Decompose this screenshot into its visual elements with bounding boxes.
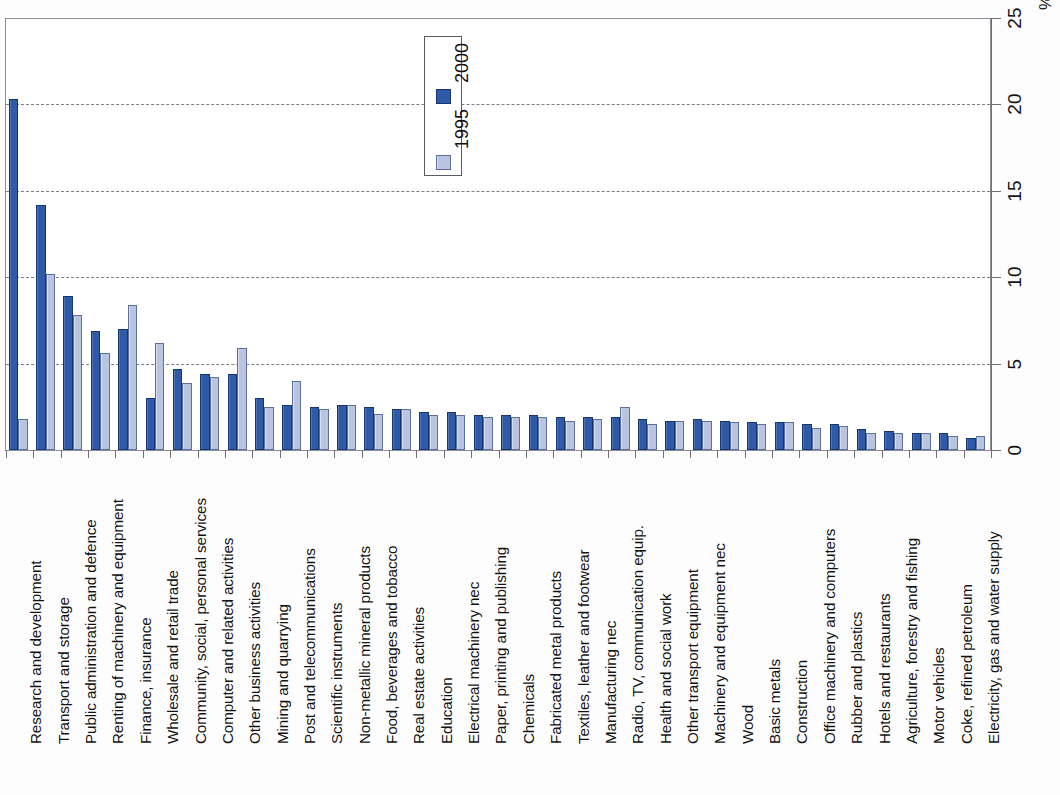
bar-1995[interactable]: [538, 417, 547, 450]
category-label: Electricity, gas and water supply: [985, 531, 1002, 744]
bar-1995[interactable]: [620, 407, 629, 450]
bar-group: [802, 18, 827, 450]
bar-1995[interactable]: [128, 305, 137, 450]
bar-group: [775, 18, 800, 450]
bar-1995[interactable]: [921, 433, 930, 450]
bar-1995[interactable]: [73, 315, 82, 450]
value-tick-label-5: 5: [1004, 334, 1026, 394]
bar-1995[interactable]: [210, 377, 219, 450]
bar-1995[interactable]: [182, 383, 191, 450]
bar-1995[interactable]: [976, 436, 985, 450]
bar-1995[interactable]: [647, 424, 656, 450]
bar-2000[interactable]: [556, 417, 565, 450]
category-tick: [252, 450, 253, 458]
bar-2000[interactable]: [91, 331, 100, 450]
plot-area: [6, 18, 991, 450]
category-label: Chemicals: [520, 674, 537, 744]
bar-2000[interactable]: [884, 431, 893, 450]
bar-1995[interactable]: [46, 274, 55, 450]
bar-1995[interactable]: [675, 421, 684, 450]
bar-1995[interactable]: [839, 426, 848, 450]
bar-2000[interactable]: [830, 424, 839, 450]
bar-2000[interactable]: [638, 419, 647, 450]
bar-2000[interactable]: [364, 407, 373, 450]
bar-2000[interactable]: [200, 374, 209, 450]
bar-group: [665, 18, 690, 450]
bar-2000[interactable]: [63, 296, 72, 450]
bar-2000[interactable]: [255, 398, 264, 450]
bar-2000[interactable]: [337, 405, 346, 450]
bar-1995[interactable]: [292, 381, 301, 450]
bar-2000[interactable]: [720, 421, 729, 450]
category-label: Research and development: [27, 561, 44, 744]
bar-2000[interactable]: [9, 99, 18, 450]
bar-2000[interactable]: [802, 424, 811, 450]
bar-2000[interactable]: [611, 417, 620, 450]
bar-group: [939, 18, 964, 450]
category-label: Machinery and equipment nec: [711, 543, 728, 744]
bar-1995[interactable]: [264, 407, 273, 450]
category-label: Mining and quarrying: [274, 604, 291, 744]
bar-1995[interactable]: [456, 415, 465, 450]
bar-1995[interactable]: [593, 419, 602, 450]
bar-2000[interactable]: [693, 419, 702, 450]
bar-2000[interactable]: [474, 415, 483, 450]
category-label: Radio, TV, communication equip.: [629, 525, 646, 744]
bar-1995[interactable]: [565, 421, 574, 450]
bar-1995[interactable]: [155, 343, 164, 450]
bar-2000[interactable]: [857, 429, 866, 450]
bar-1995[interactable]: [483, 417, 492, 450]
bar-1995[interactable]: [511, 417, 520, 450]
bar-2000[interactable]: [529, 415, 538, 450]
bar-2000[interactable]: [282, 405, 291, 450]
bar-2000[interactable]: [912, 433, 921, 450]
bar-2000[interactable]: [173, 369, 182, 450]
bar-1995[interactable]: [429, 415, 438, 450]
bar-2000[interactable]: [775, 422, 784, 450]
bar-1995[interactable]: [401, 409, 410, 450]
bar-1995[interactable]: [18, 419, 27, 450]
bar-group: [529, 18, 554, 450]
bar-2000[interactable]: [419, 412, 428, 450]
bar-1995[interactable]: [894, 433, 903, 450]
bar-1995[interactable]: [702, 421, 711, 450]
bar-2000[interactable]: [747, 422, 756, 450]
bar-group: [830, 18, 855, 450]
bar-group: [884, 18, 909, 450]
bar-2000[interactable]: [118, 329, 127, 450]
bar-1995[interactable]: [730, 422, 739, 450]
bar-group: [556, 18, 581, 450]
bar-group: [966, 18, 991, 450]
bar-1995[interactable]: [784, 422, 793, 450]
value-tick-20: [992, 104, 1001, 105]
bar-2000[interactable]: [228, 374, 237, 450]
bar-1995[interactable]: [319, 409, 328, 450]
bar-2000[interactable]: [146, 398, 155, 450]
bar-2000[interactable]: [665, 421, 674, 450]
bar-2000[interactable]: [501, 415, 510, 450]
legend-label-1995: 1995: [452, 109, 473, 149]
bar-1995[interactable]: [237, 348, 246, 450]
bar-1995[interactable]: [812, 428, 821, 450]
bar-group: [501, 18, 526, 450]
category-label: Scientific instruments: [328, 603, 345, 744]
bar-1995[interactable]: [374, 414, 383, 450]
bar-2000[interactable]: [447, 412, 456, 450]
bar-1995[interactable]: [948, 436, 957, 450]
bar-2000[interactable]: [966, 438, 975, 450]
category-tick: [416, 450, 417, 458]
bar-2000[interactable]: [583, 417, 592, 450]
category-tick: [991, 450, 992, 458]
bar-2000[interactable]: [939, 433, 948, 450]
bar-group: [200, 18, 225, 450]
bar-1995[interactable]: [757, 424, 766, 450]
bar-1995[interactable]: [100, 353, 109, 450]
bar-2000[interactable]: [36, 205, 45, 450]
bar-1995[interactable]: [347, 405, 356, 450]
bar-2000[interactable]: [310, 407, 319, 450]
category-label: Paper, printing and publishing: [492, 547, 509, 744]
bar-2000[interactable]: [392, 409, 401, 450]
category-tick: [61, 450, 62, 458]
bar-1995[interactable]: [866, 433, 875, 450]
category-label: Finance, insurance: [137, 617, 154, 744]
